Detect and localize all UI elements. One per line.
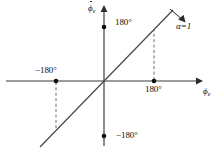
tick-label-x-positive: 180° — [145, 85, 162, 94]
y-axis-arrowhead — [101, 5, 108, 12]
marker-y-positive — [102, 25, 107, 30]
phase-detector-diagram: ϕe ϕe 180° −180° −180° 180° α=1 — [0, 0, 218, 156]
x-axis-label-subscript: e — [208, 90, 211, 97]
x-axis-label-symbol: ϕ — [203, 86, 208, 96]
y-axis-label: ϕe — [88, 4, 95, 13]
slope-annotation-label: α=1 — [176, 22, 191, 31]
y-axis-label-subscript: e — [93, 7, 96, 14]
marker-y-negative — [102, 134, 107, 139]
tick-label-x-negative: −180° — [35, 66, 57, 75]
tick-label-y-negative: −180° — [116, 131, 138, 140]
identity-line — [40, 10, 173, 147]
x-axis-arrowhead — [196, 78, 203, 85]
marker-x-positive — [152, 79, 157, 84]
y-axis-label-symbol: ϕ — [88, 4, 93, 13]
x-axis-label: ϕe — [203, 87, 210, 96]
tick-label-y-positive: 180° — [115, 18, 132, 27]
marker-x-negative — [54, 79, 59, 84]
